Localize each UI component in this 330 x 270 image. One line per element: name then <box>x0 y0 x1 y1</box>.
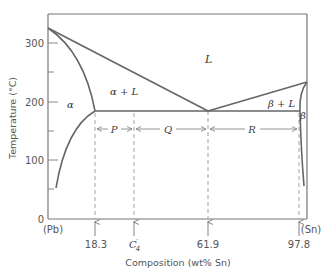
segment-labels: P Q R <box>110 124 257 135</box>
svg-text:100: 100 <box>25 155 44 166</box>
label-liquid: L <box>204 53 212 66</box>
solvus-beta <box>300 111 304 186</box>
solvus-alpha <box>56 111 95 188</box>
x-axis-title: Composition (wt% Sn) <box>125 257 230 268</box>
label-61-9: 61.9 <box>197 239 219 250</box>
solidus-beta <box>300 82 307 111</box>
x-labels: (Pb) (Sn) 18.3 61.9 97.8 C′4 <box>43 224 321 253</box>
label-18-3: 18.3 <box>85 239 107 250</box>
label-Q: Q <box>164 124 172 135</box>
y-tick-labels: 0 100 200 300 <box>25 38 44 225</box>
label-R: R <box>247 124 256 135</box>
svg-text:300: 300 <box>25 38 44 49</box>
label-sn: (Sn) <box>301 224 322 235</box>
label-beta-plus-liquid: β + L <box>267 98 296 109</box>
y-axis-title: Temperature (°C) <box>7 77 18 160</box>
label-c4-prime: C′4 <box>129 238 140 253</box>
diagram-canvas: 0 100 200 300 Temperature (°C) L α + L α… <box>0 0 330 270</box>
composition-arrows <box>95 222 299 236</box>
svg-text:200: 200 <box>25 97 44 108</box>
label-beta: β <box>299 110 306 121</box>
label-97-8: 97.8 <box>288 239 310 250</box>
label-alpha-plus-liquid: α + L <box>110 86 138 97</box>
phase-diagram: 0 100 200 300 Temperature (°C) L α + L α… <box>0 0 330 270</box>
label-alpha: α <box>67 99 74 110</box>
y-ticks <box>48 43 58 189</box>
label-P: P <box>110 124 118 135</box>
label-pb: (Pb) <box>43 224 63 235</box>
composition-dashed-lines <box>95 111 299 219</box>
